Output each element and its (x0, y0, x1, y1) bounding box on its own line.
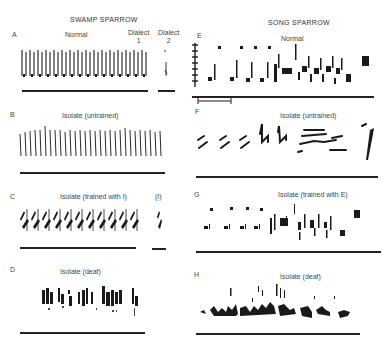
time-axis-a-dialect2 (158, 90, 175, 92)
panel-letter-g: G (194, 191, 199, 198)
spectrogram-d (40, 286, 150, 331)
time-axis-a (22, 90, 148, 92)
panel-a-label: Normal (65, 31, 88, 38)
panel-letter-b: B (10, 111, 15, 118)
spectrogram-c-extra (155, 207, 165, 237)
time-scale-bar (197, 97, 233, 105)
dialect-2-label: Dialect 2 (158, 29, 179, 45)
panel-letter-d: D (10, 266, 15, 273)
panel-letter-e: E (197, 32, 202, 39)
panel-d-label: Isolate (deaf) (60, 268, 101, 275)
song-sparrow-title: SONG SPARROW (268, 19, 330, 26)
panel-b-label: Isolate (untrained) (62, 112, 118, 119)
panel-e-label: Normal (281, 35, 304, 42)
panel-h-label: Isolate (deaf) (280, 273, 321, 280)
time-axis-b (20, 172, 165, 174)
time-axis-c (20, 247, 136, 249)
panel-c-label: Isolate (trained with I) (60, 193, 127, 200)
time-axis-d (20, 332, 145, 334)
spectrogram-a-dialect2 (163, 48, 169, 88)
spectrogram-c (18, 207, 143, 237)
swamp-sparrow-title: SWAMP SPARROW (70, 16, 138, 23)
panel-letter-a: A (12, 31, 17, 38)
panel-g-label: Isolate (trained with E) (278, 191, 348, 198)
time-axis-h (196, 333, 360, 335)
panel-letter-f: F (195, 108, 199, 115)
spectrogram-h (200, 284, 360, 324)
time-axis-f (196, 176, 378, 178)
panel-f-label: Isolate (untrained) (280, 112, 336, 119)
spectrogram-a (20, 46, 150, 86)
frequency-axis-e (191, 43, 199, 88)
spectrogram-b (18, 126, 168, 161)
spectrogram-e (200, 44, 370, 94)
panel-letter-h: H (194, 271, 199, 278)
panel-letter-c: C (10, 193, 15, 200)
spectrogram-g (196, 204, 366, 244)
spectrogram-f (196, 124, 376, 174)
time-axis-g (196, 251, 381, 253)
time-axis-c-extra (152, 248, 166, 250)
dialect-1-label: Dialect 1 (128, 29, 149, 45)
panel-c-extra-label: (I) (155, 193, 162, 200)
